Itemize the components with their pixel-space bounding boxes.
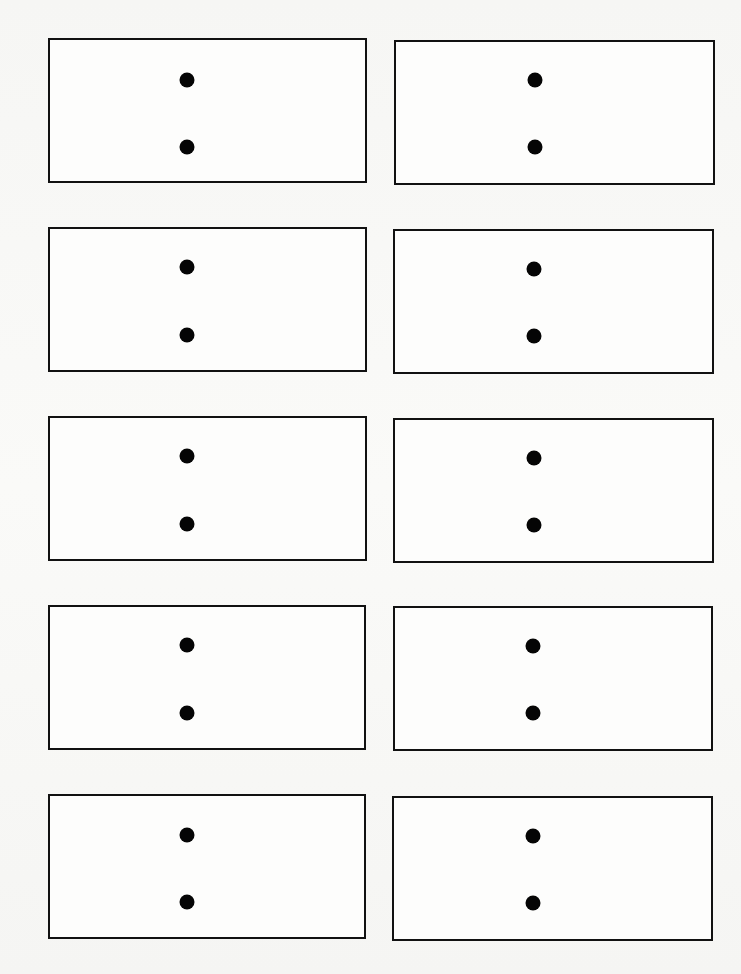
bottom-dot-icon (180, 895, 195, 910)
domino-card (394, 40, 715, 185)
top-dot-icon (526, 639, 541, 654)
bottom-dot-icon (526, 896, 541, 911)
domino-card (392, 796, 713, 941)
bottom-dot-icon (180, 517, 195, 532)
bottom-dot-icon (527, 329, 542, 344)
top-dot-icon (526, 829, 541, 844)
top-dot-icon (180, 828, 195, 843)
bottom-dot-icon (180, 706, 195, 721)
domino-card (48, 38, 367, 183)
bottom-dot-icon (528, 140, 543, 155)
bottom-dot-icon (527, 518, 542, 533)
domino-card (393, 606, 713, 751)
top-dot-icon (180, 638, 195, 653)
domino-card (48, 227, 367, 372)
top-dot-icon (180, 260, 195, 275)
top-dot-icon (180, 73, 195, 88)
printable-page (0, 0, 741, 974)
top-dot-icon (527, 451, 542, 466)
top-dot-icon (528, 73, 543, 88)
bottom-dot-icon (180, 328, 195, 343)
domino-card (48, 794, 366, 939)
bottom-dot-icon (180, 140, 195, 155)
domino-card (393, 229, 714, 374)
domino-card (48, 605, 366, 750)
domino-card (393, 418, 714, 563)
top-dot-icon (527, 262, 542, 277)
domino-card (48, 416, 367, 561)
top-dot-icon (180, 449, 195, 464)
bottom-dot-icon (526, 706, 541, 721)
